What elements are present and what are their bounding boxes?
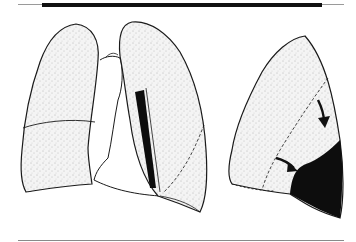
right-lung-frontal: [21, 24, 98, 192]
lung-illustration: [0, 0, 356, 242]
right-lung-shape: [21, 24, 98, 192]
figure-frame: [0, 0, 356, 242]
left-lung-lateral: [229, 36, 343, 218]
